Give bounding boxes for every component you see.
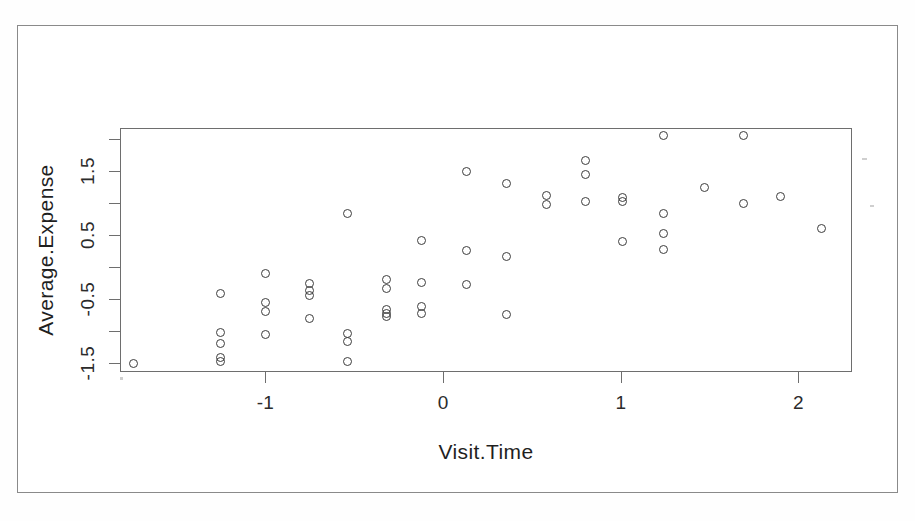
scan-speck bbox=[870, 205, 874, 207]
plot-device: Average.Expense Visit.Time -1.5-0.50.51.… bbox=[0, 0, 915, 521]
data-point bbox=[462, 167, 471, 176]
x-axis-tick bbox=[443, 372, 444, 383]
x-axis-tick-label: 2 bbox=[793, 392, 804, 414]
data-point bbox=[417, 278, 426, 287]
data-point bbox=[382, 275, 391, 284]
data-point bbox=[129, 359, 138, 368]
y-axis-tick-label: 1.5 bbox=[77, 157, 99, 185]
data-point bbox=[343, 337, 352, 346]
y-axis-tick bbox=[109, 267, 120, 268]
data-point bbox=[261, 330, 270, 339]
data-point bbox=[305, 291, 314, 300]
data-point bbox=[581, 170, 590, 179]
x-axis-title: Visit.Time bbox=[438, 440, 533, 464]
y-axis-tick bbox=[109, 139, 120, 140]
scan-speck bbox=[120, 377, 123, 380]
x-axis-tick bbox=[265, 372, 266, 383]
data-point bbox=[417, 309, 426, 318]
data-point bbox=[417, 236, 426, 245]
data-point bbox=[462, 280, 471, 289]
data-point bbox=[343, 209, 352, 218]
x-axis-tick bbox=[621, 372, 622, 383]
data-point bbox=[581, 197, 590, 206]
data-point bbox=[382, 284, 391, 293]
data-point bbox=[581, 156, 590, 165]
data-point bbox=[659, 229, 668, 238]
data-point bbox=[382, 312, 391, 321]
y-axis-tick bbox=[109, 203, 120, 204]
y-axis-tick bbox=[109, 331, 120, 332]
data-point bbox=[618, 197, 627, 206]
data-point bbox=[261, 269, 270, 278]
scatter-plot-screenshot: Average.Expense Visit.Time -1.5-0.50.51.… bbox=[0, 0, 915, 521]
data-point bbox=[618, 237, 627, 246]
x-axis-tick-label: 0 bbox=[438, 392, 449, 414]
plot-frame bbox=[120, 128, 852, 372]
y-axis-tick bbox=[109, 235, 120, 236]
y-axis-tick-label: 0.5 bbox=[77, 221, 99, 249]
x-axis-tick-label: 1 bbox=[615, 392, 626, 414]
data-point bbox=[700, 183, 709, 192]
data-point bbox=[305, 314, 314, 323]
y-axis-tick bbox=[109, 171, 120, 172]
y-axis-tick bbox=[109, 299, 120, 300]
data-point bbox=[462, 246, 471, 255]
x-axis-tick-label: -1 bbox=[257, 392, 274, 414]
data-point bbox=[739, 199, 748, 208]
data-point bbox=[542, 200, 551, 209]
scan-speck bbox=[862, 158, 867, 160]
y-axis-tick-label: -0.5 bbox=[77, 282, 99, 317]
x-axis-tick bbox=[798, 372, 799, 383]
y-axis-tick bbox=[109, 363, 120, 364]
data-point bbox=[659, 245, 668, 254]
y-axis-title: Average.Expense bbox=[34, 164, 58, 335]
data-point bbox=[343, 357, 352, 366]
data-point bbox=[542, 191, 551, 200]
y-axis-tick-label: -1.5 bbox=[77, 346, 99, 381]
